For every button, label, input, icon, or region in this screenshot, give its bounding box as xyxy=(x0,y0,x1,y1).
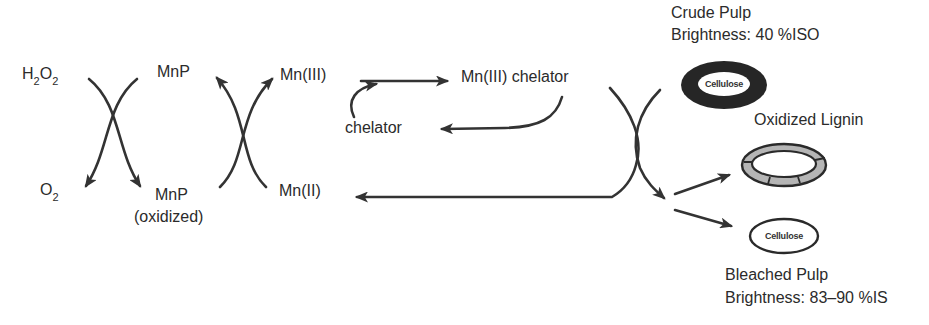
arrow-h2o2-to-o2 xyxy=(86,79,137,186)
label-bleached-pulp: Bleached Pulp xyxy=(725,266,828,284)
label-bleached-cellulose: Cellulose xyxy=(765,231,803,241)
arrow-to-oxidized-lignin xyxy=(675,175,729,194)
oxidized-lignin-ring-icon xyxy=(742,144,826,186)
label-mn2: Mn(II) xyxy=(279,182,321,200)
label-chelator: chelator xyxy=(345,119,402,137)
label-o2: O2 xyxy=(40,181,59,200)
arrow-mnp-to-mnp-oxidized xyxy=(89,79,140,186)
arrow-chelator-release xyxy=(442,97,562,129)
label-mn3-chelator: Mn(III) chelator xyxy=(461,68,569,86)
label-crude-cellulose: Cellulose xyxy=(705,79,743,89)
label-crude-pulp: Crude Pulp xyxy=(671,4,751,22)
arrow-chelate-to-pulp xyxy=(636,90,664,198)
arrow-to-bleached-pulp xyxy=(675,210,731,226)
label-mnp: MnP xyxy=(157,63,190,81)
label-h2o2: H2O2 xyxy=(22,65,58,84)
path-pulp-to-mn2 xyxy=(357,88,638,197)
label-mn3: Mn(III) xyxy=(280,66,326,84)
label-oxidized: (oxidized) xyxy=(134,208,203,226)
mnp-bleaching-diagram: H2O2 O2 MnP MnP (oxidized) Mn(III) Mn(II… xyxy=(0,0,929,325)
label-mnp-oxidized: MnP xyxy=(155,186,188,204)
label-bleached-brightness: Brightness: 83–90 %IS xyxy=(725,289,888,307)
label-crude-brightness: Brightness: 40 %ISO xyxy=(671,26,820,44)
label-oxidized-lignin: Oxidized Lignin xyxy=(754,111,863,129)
arrow-chelator-join xyxy=(351,84,376,117)
